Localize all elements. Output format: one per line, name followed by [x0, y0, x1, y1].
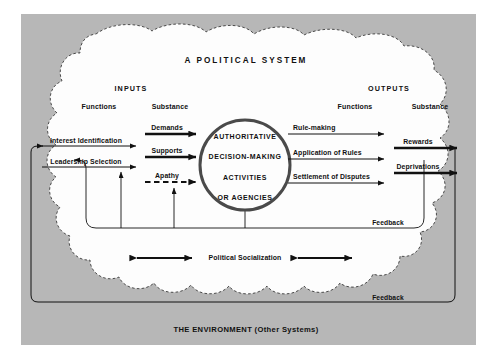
- inputs-heading: INPUTS: [115, 84, 148, 93]
- label-deprivations: Deprivations: [397, 163, 440, 170]
- figure-canvas: A POLITICAL SYSTEM INPUTS Functions Subs…: [0, 0, 493, 359]
- label-feedback-inner: Feedback: [372, 219, 404, 226]
- label-demands: Demands: [151, 124, 183, 131]
- environment-label: THE ENVIRONMENT (Other Systems): [173, 325, 318, 334]
- core-line-2: DECISION-MAKING: [209, 153, 282, 160]
- label-supports: Supports: [151, 147, 182, 154]
- outputs-heading: OUTPUTS: [368, 84, 410, 93]
- label-interest-identification: Interest Identification: [50, 137, 122, 144]
- label-settlement-of-disputes: Settlement of Disputes: [293, 173, 370, 180]
- label-leadership-selection: Leadership Selection: [50, 158, 121, 165]
- label-political-socialization: Political Socialization: [209, 254, 282, 261]
- label-apathy: Apathy: [155, 172, 179, 179]
- label-feedback-outer: Feedback: [372, 294, 404, 301]
- core-line-1: AUTHORITATIVE: [214, 133, 277, 140]
- inputs-substance-column-header: Substance: [152, 103, 189, 110]
- label-rule-making: Rule-making: [293, 124, 335, 131]
- label-application-of-rules: Application of Rules: [293, 149, 362, 156]
- label-rewards: Rewards: [403, 138, 432, 145]
- outputs-functions-column-header: Functions: [338, 103, 373, 110]
- inputs-functions-column-header: Functions: [82, 103, 117, 110]
- outputs-substance-column-header: Substance: [412, 103, 449, 110]
- figure-title: A POLITICAL SYSTEM: [185, 56, 308, 65]
- core-line-3: ACTIVITIES: [223, 174, 267, 181]
- core-line-4: OR AGENCIES: [218, 194, 273, 201]
